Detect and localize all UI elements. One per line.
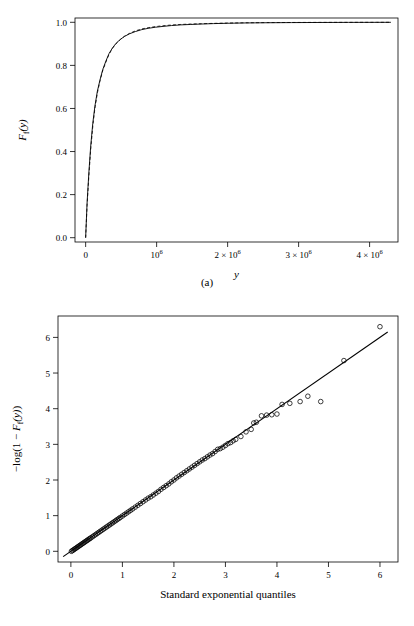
data-point	[259, 414, 264, 419]
x-tick-label-b: 2	[172, 570, 177, 580]
series-line-fitted	[86, 22, 391, 237]
x-tick-label-a: 106	[151, 248, 164, 260]
data-point	[378, 324, 383, 329]
x-tick-label-b: 0	[69, 570, 74, 580]
series-line-empirical	[86, 22, 391, 237]
y-tick-label-b: 4	[46, 404, 51, 414]
chart-a-svg: 0.00.20.40.60.81.001062 × 1063 × 1064 × …	[0, 0, 414, 300]
x-tick-label-b: 5	[326, 570, 331, 580]
data-point	[298, 399, 303, 404]
y-tick-label-b: 3	[46, 440, 51, 450]
chart-panel-a: 0.00.20.40.60.81.001062 × 1063 × 1064 × …	[0, 0, 414, 300]
y-tick-label-a: 0.6	[56, 104, 68, 114]
y-tick-label-a: 0.8	[56, 61, 68, 71]
y-tick-label-a: 0.4	[56, 147, 68, 157]
x-tick-label-a: 0	[83, 250, 88, 260]
data-point	[288, 401, 293, 406]
y-axis-title-b: −log(1 − Ff(y))	[10, 406, 25, 473]
x-tick-label-b: 4	[275, 570, 280, 580]
data-point	[239, 434, 244, 439]
data-point	[249, 427, 254, 432]
chart-panel-b: 01234560123456Standard exponential quant…	[0, 300, 414, 626]
y-tick-label-b: 2	[46, 476, 51, 486]
data-point	[306, 394, 311, 399]
y-tick-label-a: 0.2	[56, 190, 67, 200]
y-tick-label-b: 1	[46, 511, 51, 521]
svg-text:Ff(y): Ff(y)	[16, 119, 31, 142]
y-tick-label-b: 6	[46, 333, 51, 343]
data-point	[318, 399, 323, 404]
y-axis-title-a: Ff(y)	[16, 119, 31, 142]
x-tick-label-a: 3 × 106	[285, 248, 312, 260]
x-tick-label-b: 1	[120, 570, 125, 580]
y-tick-label-b: 5	[46, 369, 51, 379]
x-axis-title-b: Standard exponential quantiles	[160, 588, 296, 600]
y-tick-label-a: 1.0	[56, 18, 68, 28]
data-point	[269, 412, 274, 417]
plot-frame-a	[75, 18, 398, 242]
y-tick-label-b: 0	[46, 547, 51, 557]
chart-b-svg: 01234560123456Standard exponential quant…	[0, 300, 414, 626]
data-point	[275, 412, 280, 417]
x-tick-label-a: 4 × 106	[356, 248, 383, 260]
y-tick-label-a: 0.0	[56, 233, 68, 243]
x-tick-label-b: 6	[378, 570, 383, 580]
x-tick-label-b: 3	[223, 570, 228, 580]
panel-a-caption: (a)	[0, 276, 414, 288]
svg-text:−log(1 − Ff(y)): −log(1 − Ff(y))	[10, 406, 25, 473]
x-tick-label-a: 2 × 106	[214, 248, 241, 260]
figure-container: 0.00.20.40.60.81.001062 × 1063 × 1064 × …	[0, 0, 414, 626]
